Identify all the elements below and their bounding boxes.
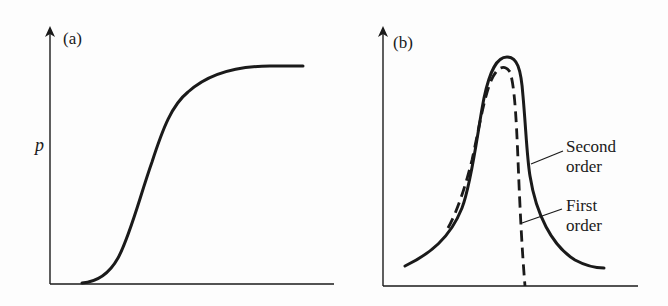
panel-a-label: (a) — [63, 29, 82, 48]
first-order-label-line2: order — [566, 216, 602, 235]
first-order-label-line1: First — [566, 196, 597, 215]
panel-a-y-axis-label: p — [33, 135, 44, 155]
panel-b: (b) Second order First order — [383, 28, 638, 286]
figure-canvas: (a) p (b) Second order First order — [0, 0, 668, 306]
panel-b-label: (b) — [393, 33, 413, 52]
second-order-label-line1: Second — [566, 137, 617, 156]
second-order-label-line2: order — [566, 157, 602, 176]
second-order-leader — [531, 151, 563, 164]
first-order-curve — [448, 68, 525, 287]
panel-a: (a) p — [33, 28, 334, 284]
panel-a-sigmoid-curve — [82, 66, 303, 283]
